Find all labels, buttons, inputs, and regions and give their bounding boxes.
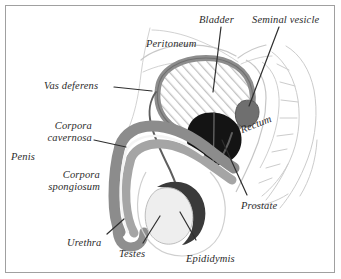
anatomy-figure: Bladder Seminal vesicle Peritoneum Vas d… bbox=[0, 0, 341, 279]
label-peritoneum: Peritoneum bbox=[146, 38, 197, 50]
testis-shape bbox=[145, 188, 193, 244]
label-epididymis: Epididymis bbox=[186, 253, 235, 265]
label-corpora-cavernosa-line1: Corpora bbox=[55, 120, 92, 131]
leader-seminal-vesicle bbox=[249, 27, 279, 106]
label-penis: Penis bbox=[11, 151, 35, 163]
label-seminal-vesicle: Seminal vesicle bbox=[252, 14, 319, 26]
label-corpora-cavernosa-line2: cavernosa bbox=[47, 132, 92, 143]
leader-vas-deferens bbox=[114, 87, 152, 91]
label-testes: Testes bbox=[119, 248, 145, 260]
label-corpora-cavernosa: Corporacavernosa bbox=[16, 120, 92, 144]
label-vas-deferens: Vas deferens bbox=[44, 80, 98, 92]
label-corpora-spongiosum-line2: spongiosum bbox=[48, 181, 100, 192]
label-corpora-spongiosum-line1: Corpora bbox=[63, 169, 100, 180]
label-bladder: Bladder bbox=[199, 14, 234, 26]
label-prostate: Prostate bbox=[241, 200, 277, 212]
label-corpora-spongiosum: Corporaspongiosum bbox=[18, 169, 100, 193]
label-urethra: Urethra bbox=[67, 237, 102, 249]
